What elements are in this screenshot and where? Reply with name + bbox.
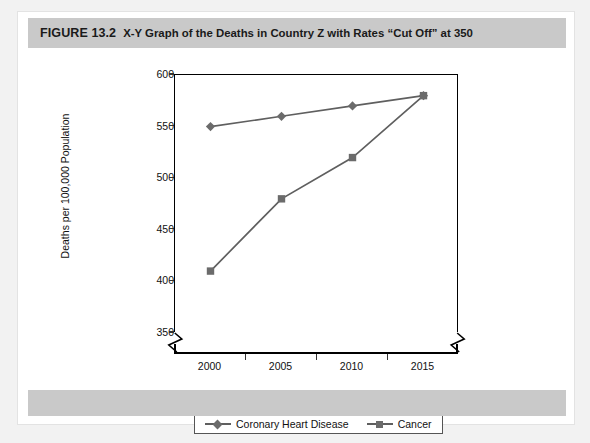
x-tick-label: 2000	[180, 360, 240, 372]
chart-legend: Coronary Heart Disease Cancer	[194, 414, 443, 434]
x-tick-label: 2005	[251, 360, 311, 372]
page-background: FIGURE 13.2 X-Y Graph of the Deaths in C…	[0, 0, 590, 443]
figure-footer-band	[28, 390, 566, 416]
figure-caption: X-Y Graph of the Deaths in Country Z wit…	[123, 27, 473, 39]
legend-item-cancer: Cancer	[367, 418, 432, 430]
diamond-marker-icon	[205, 419, 231, 429]
axis-break-marks	[18, 50, 574, 370]
figure-card: FIGURE 13.2 X-Y Graph of the Deaths in C…	[18, 12, 574, 424]
x-tick-label: 2015	[393, 360, 453, 372]
legend-label: Cancer	[398, 418, 432, 430]
axis-break-zigzag	[169, 333, 182, 352]
legend-item-coronary-heart-disease: Coronary Heart Disease	[205, 418, 349, 430]
x-tick-mark	[316, 354, 317, 360]
figure-title-banner: FIGURE 13.2 X-Y Graph of the Deaths in C…	[28, 18, 566, 48]
square-marker-icon	[367, 419, 393, 429]
x-tick-mark	[245, 354, 246, 360]
figure-number: FIGURE 13.2	[40, 26, 116, 40]
legend-label: Coronary Heart Disease	[236, 418, 349, 430]
x-tick-mark	[387, 354, 388, 360]
x-tick-label: 2010	[322, 360, 382, 372]
axis-break-zigzag	[451, 333, 464, 352]
chart-container: Deaths per 100,000 Population 3504004505…	[18, 50, 574, 370]
